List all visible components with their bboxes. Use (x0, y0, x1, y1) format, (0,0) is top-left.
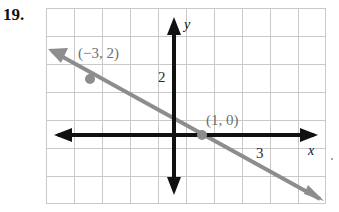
stray-dot-artifact (331, 158, 333, 160)
point-marker-b (197, 130, 207, 140)
point-marker-a (85, 74, 95, 84)
figure-root: 19. (0, 0, 339, 212)
graph-svg (46, 8, 326, 204)
point-a-label: (−3, 2) (78, 46, 119, 61)
y-axis-arrow-up (167, 17, 181, 35)
coordinate-graph: (−3, 2) (1, 0) 2 3 y x (46, 8, 326, 204)
y-tick-label: 2 (158, 70, 166, 85)
point-b-label: (1, 0) (206, 113, 239, 128)
x-axis-arrow-right (300, 128, 318, 142)
problem-number: 19. (3, 6, 24, 23)
y-axis-label: y (184, 18, 190, 32)
x-tick-label: 3 (256, 146, 264, 161)
grid-lines (46, 8, 326, 204)
x-axis-arrow-left (54, 128, 72, 142)
y-axis-arrow-down (167, 177, 181, 195)
x-axis-label: x (308, 144, 314, 158)
